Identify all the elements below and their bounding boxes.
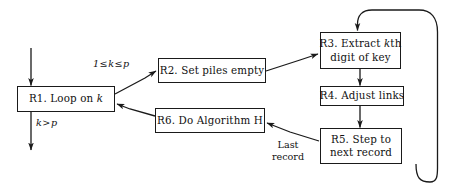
node-R6-label: R6. Do Algorithm H: [157, 114, 263, 127]
flowchart-diagram: R1. Loop on k R2. Set piles empty R3. Ex…: [0, 0, 454, 193]
node-R3[interactable]: R3. Extract kth digit of key: [320, 32, 401, 69]
edge-R2-to-R3: [266, 54, 318, 71]
edge-label-loop-continue: 1≤k≤p: [93, 58, 129, 70]
edge-label-loop-exit: k>p: [36, 117, 57, 129]
node-R5-label: R5. Step to next record: [330, 133, 392, 159]
node-R6[interactable]: R6. Do Algorithm H: [155, 108, 265, 133]
node-R4[interactable]: R4. Adjust links: [320, 86, 404, 106]
node-R2[interactable]: R2. Set piles empty: [158, 58, 266, 83]
node-R3-label: R3. Extract kth digit of key: [320, 37, 402, 63]
edge-label-last-record: Last record: [268, 139, 308, 162]
node-R2-label: R2. Set piles empty: [160, 64, 265, 77]
edge-R1-to-R2: [115, 71, 156, 94]
edge-label-last-record-line1: Last: [278, 139, 299, 150]
node-R1[interactable]: R1. Loop on k: [17, 86, 115, 112]
node-R5[interactable]: R5. Step to next record: [320, 128, 402, 164]
node-R4-label: R4. Adjust links: [320, 89, 405, 102]
edge-R6-to-R1: [117, 104, 155, 116]
node-R1-label: R1. Loop on k: [29, 92, 103, 105]
edge-label-last-record-line2: record: [272, 151, 304, 162]
